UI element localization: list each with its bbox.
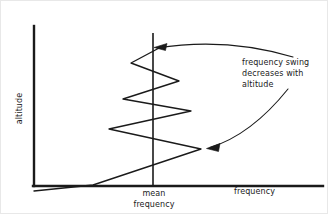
upper-leader-line: [157, 44, 293, 57]
frequency-altitude-diagram: altitude frequency meanfrequency frequen…: [0, 0, 328, 214]
frequency-swing-waveform: [34, 47, 201, 191]
mean-frequency-label: meanfrequency: [121, 189, 187, 210]
annotation-line-1: frequency swing: [242, 58, 309, 67]
mean-frequency-label-line-2: frequency: [133, 200, 174, 209]
lower-arrowhead-icon: [207, 144, 221, 152]
diagram-canvas: [1, 1, 328, 214]
x-axis-label: frequency: [234, 187, 275, 196]
annotation-line-2: decreases with: [242, 69, 304, 78]
mean-frequency-label-line-1: mean: [142, 189, 165, 198]
annotation-callout: frequency swingdecreases withaltitude: [242, 57, 328, 90]
lower-leader-line: [210, 89, 288, 148]
annotation-line-3: altitude: [242, 80, 274, 89]
y-axis-label: altitude: [15, 83, 24, 135]
